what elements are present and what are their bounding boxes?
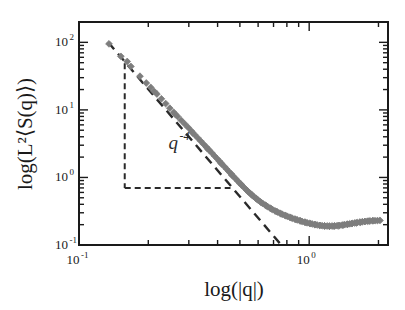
tick-label: 10 bbox=[297, 252, 310, 267]
tick-label-exponent: 1 bbox=[70, 100, 75, 110]
tick-label: 10 bbox=[67, 252, 80, 267]
tick-label: 10 bbox=[55, 102, 68, 117]
tick-label-exponent: 2 bbox=[70, 32, 75, 42]
tick-label: 10 bbox=[55, 34, 68, 49]
figure-panel: 10-110010110210-1100 q -4 log(|q|) log(L… bbox=[0, 0, 405, 310]
tick-label: 10 bbox=[55, 237, 68, 252]
tick-label-exponent: 0 bbox=[311, 250, 316, 260]
x-axis-label: log(|q|) bbox=[204, 277, 264, 301]
tick-label-exponent: -1 bbox=[70, 235, 78, 245]
tick-label-exponent: 0 bbox=[70, 167, 75, 177]
annotation-exponent: -4 bbox=[180, 129, 190, 143]
y-axis-label: log(L²⟨S(q)⟩) bbox=[13, 78, 37, 190]
annotation-base-q: q bbox=[169, 132, 179, 153]
tick-label: 10 bbox=[55, 169, 68, 184]
scatter-plot: 10-110010110210-1100 q -4 log(|q|) log(L… bbox=[0, 0, 405, 310]
tick-label-exponent: -1 bbox=[81, 250, 89, 260]
